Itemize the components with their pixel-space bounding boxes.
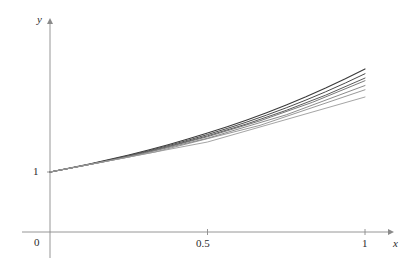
origin-tick-label: 0 <box>34 237 40 248</box>
axis-ticks-group <box>47 172 365 235</box>
curve-n6 <box>50 81 365 172</box>
plot-figure: y x 0 0.5 1 1 <box>0 0 419 266</box>
curve-n3 <box>50 90 365 172</box>
plot-canvas <box>0 0 419 266</box>
x-axis-label: x <box>393 238 398 249</box>
x-tick-label-0_5: 0.5 <box>196 238 210 249</box>
y-tick-label-1: 1 <box>33 166 39 177</box>
y-axis-label: y <box>37 14 42 25</box>
curve-n16 <box>50 74 365 172</box>
curve-exact <box>50 69 365 172</box>
curve-series-group <box>50 69 365 172</box>
x-tick-label-1: 1 <box>362 238 368 249</box>
